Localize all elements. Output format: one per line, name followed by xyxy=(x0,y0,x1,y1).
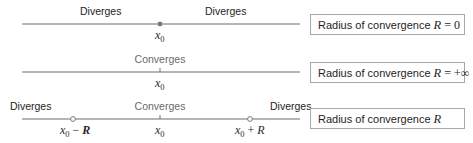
box-relation: = xyxy=(441,18,454,32)
box-variable: R xyxy=(434,112,442,126)
row-zero-radius: Diverges Diverges x0 xyxy=(22,5,300,44)
row-finite-radius: Diverges Converges Diverges x0 − R x0 x0… xyxy=(10,100,311,139)
radius-box-finite: Radius of convergence R xyxy=(310,108,465,129)
left-endpoint-open-circle xyxy=(71,117,76,122)
diverges-right-label: Diverges xyxy=(205,5,246,17)
center-point-dot xyxy=(158,22,163,27)
diverges-left-label: Diverges xyxy=(10,100,51,112)
radius-box-infinite: Radius of convergence R = +∞ xyxy=(310,62,465,83)
box-text: Radius of convergence xyxy=(318,19,434,31)
row-infinite-radius: Converges x0 xyxy=(22,53,300,92)
box-value: +∞ xyxy=(454,66,469,80)
box-text: Radius of convergence xyxy=(318,67,434,79)
left-endpoint-label: x0 − R xyxy=(59,123,90,139)
diverges-right-label: Diverges xyxy=(270,100,311,112)
box-value: 0 xyxy=(454,18,460,32)
box-relation: = xyxy=(441,66,454,80)
radius-box-zero: Radius of convergence R = 0 xyxy=(310,14,465,35)
right-endpoint-open-circle xyxy=(248,117,253,122)
center-x-label: x0 xyxy=(154,123,165,139)
diverges-left-label: Diverges xyxy=(80,5,121,17)
converges-label: Converges xyxy=(135,100,186,112)
right-endpoint-label: x0 + R xyxy=(234,123,265,139)
converges-label: Converges xyxy=(135,53,186,65)
center-x-label: x0 xyxy=(154,28,165,44)
box-text: Radius of convergence xyxy=(318,113,434,125)
center-x-label: x0 xyxy=(154,76,165,92)
